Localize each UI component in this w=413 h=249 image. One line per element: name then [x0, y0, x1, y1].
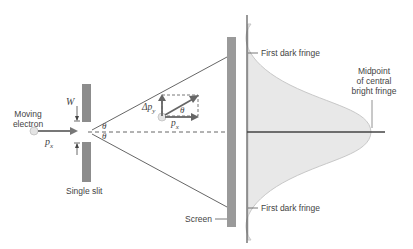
- slit-lower-bar: [82, 142, 91, 182]
- diagram-canvas: [0, 0, 413, 249]
- resultant-arrow: [165, 99, 193, 115]
- lower-spread-line: [92, 134, 227, 207]
- screen: [227, 37, 236, 227]
- screen-label: Screen: [185, 214, 212, 224]
- px-vector-label: px: [171, 118, 179, 131]
- width-arrowhead-bottom: [75, 143, 79, 148]
- midpoint-line3: bright fringe: [346, 86, 402, 96]
- momentum-arrowhead: [70, 127, 78, 135]
- slit-width-label: W: [66, 96, 74, 107]
- px-left-sub: x: [50, 142, 53, 150]
- delta-py-sub: y: [152, 107, 155, 115]
- moving-electron-label: Moving electron: [8, 109, 48, 129]
- theta-lower-label: θ: [102, 131, 106, 141]
- resultant-arrowhead: [189, 95, 199, 103]
- slit-upper-bar: [82, 84, 91, 122]
- moving-electron-line1: Moving: [8, 109, 48, 119]
- diffraction-diagram: Moving electron W px θ θ Single slit Δpy…: [0, 0, 413, 249]
- moving-electron-line2: electron: [8, 119, 48, 129]
- delta-py-main: Δp: [142, 102, 152, 112]
- px-left-label: px: [45, 136, 53, 150]
- delta-py-label: Δpy: [142, 102, 155, 115]
- width-arrowhead-top: [75, 116, 79, 121]
- theta-vector-label: θ: [180, 105, 184, 115]
- midpoint-label: Midpoint of central bright fringe: [346, 66, 402, 96]
- first-dark-fringe-bottom-label: First dark fringe: [261, 203, 320, 213]
- midpoint-line2: of central: [346, 76, 402, 86]
- first-dark-fringe-top-label: First dark fringe: [261, 48, 320, 58]
- midpoint-line1: Midpoint: [346, 66, 402, 76]
- single-slit-label: Single slit: [66, 186, 102, 196]
- px-vector-sub: x: [176, 123, 179, 131]
- theta-upper-label: θ: [102, 121, 106, 131]
